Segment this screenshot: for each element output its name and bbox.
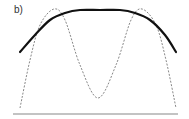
solid-plateau-curve — [20, 10, 176, 52]
dashed-double-peak-curve — [20, 9, 176, 108]
diagram-canvas — [0, 0, 189, 119]
